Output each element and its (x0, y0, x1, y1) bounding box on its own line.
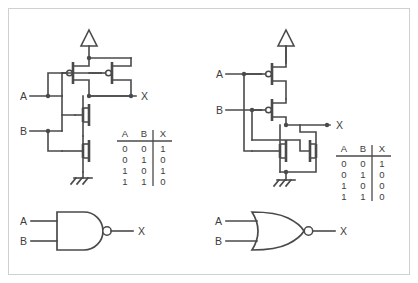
pmos2-inversion-bubble-icon (106, 70, 112, 76)
right-table-cell: 0 (379, 180, 384, 191)
right-table-cell: 0 (341, 169, 346, 180)
right-table-cell: 0 (341, 158, 346, 169)
junction-out-right (284, 123, 288, 127)
nand-output-label: X (138, 225, 145, 237)
input-a-label-left: A (20, 90, 27, 102)
left-table-header-b: B (141, 128, 147, 139)
nand-bubble-icon (103, 227, 111, 235)
left-table-cell: 0 (122, 143, 127, 154)
input-b-label-left: B (20, 125, 27, 137)
junction-b-right (250, 108, 254, 112)
left-table-cell: 0 (160, 176, 165, 187)
left-table-cell: 1 (141, 176, 146, 187)
right-table-header-b: B (360, 143, 366, 154)
right-table-header-a: A (341, 143, 348, 154)
figure-frame: X A B (0, 0, 418, 283)
right-table-cell: 0 (360, 158, 365, 169)
left-table-cell: 0 (141, 165, 146, 176)
circuit-figure: X A B (0, 0, 418, 283)
pmos2-inversion-bubble-icon-right (266, 107, 272, 113)
junction-b-left (46, 129, 50, 133)
left-table-cell: 1 (122, 176, 127, 187)
right-table-cell: 1 (341, 191, 346, 202)
right-table-cell: 0 (379, 169, 384, 180)
pmos1-inversion-bubble-icon-right (266, 71, 272, 77)
junction-x-left (129, 94, 133, 98)
nor-bubble-icon (304, 227, 312, 235)
junction-gnd-right (284, 170, 288, 174)
right-table-cell: 0 (360, 180, 365, 191)
junction-a-right (242, 72, 246, 76)
input-a-label-right: A (216, 68, 223, 80)
left-truth-table: A B X 0 0 1 0 1 0 1 0 1 1 1 0 (117, 128, 172, 187)
right-table-cell: 0 (379, 191, 384, 202)
left-table-cell: 0 (141, 143, 146, 154)
nor-input-a-label: A (215, 215, 222, 227)
right-table-cell: 1 (360, 191, 365, 202)
right-truth-table: A B X 0 0 1 0 1 0 1 0 0 1 1 0 (336, 143, 391, 202)
left-table-cell: 1 (141, 154, 146, 165)
nor-input-b-label: B (215, 235, 222, 247)
nand-body-shape (57, 212, 103, 250)
junction-x-right (325, 123, 329, 127)
left-table-cell: 0 (122, 154, 127, 165)
left-table-header-x: X (160, 128, 167, 139)
left-table-header-a: A (122, 128, 129, 139)
right-table-cell: 1 (360, 169, 365, 180)
left-table-cell: 0 (160, 154, 165, 165)
right-table-header-x: X (379, 143, 386, 154)
left-table-cell: 1 (160, 165, 165, 176)
right-table-cell: 1 (341, 180, 346, 191)
output-label-right: X (336, 119, 343, 131)
left-table-cell: 1 (122, 165, 127, 176)
junction-a-left (46, 94, 50, 98)
nand-input-b-label: B (20, 235, 27, 247)
output-label-left: X (141, 90, 148, 102)
left-table-cell: 1 (160, 143, 165, 154)
right-table-cell: 1 (379, 158, 384, 169)
nor-output-label: X (340, 225, 347, 237)
nand-input-a-label: A (20, 215, 27, 227)
input-b-label-right: B (216, 104, 223, 116)
